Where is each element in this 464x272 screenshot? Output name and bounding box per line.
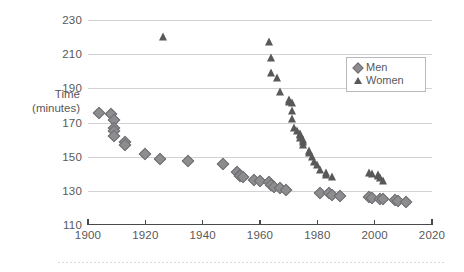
x-axis-tick: [317, 220, 319, 225]
bottom-divider: [58, 262, 446, 263]
data-point-women: [265, 38, 273, 46]
x-axis-tick-label: 2020: [419, 229, 445, 241]
x-axis-tick-label: 1960: [247, 229, 273, 241]
legend-label-men: Men: [366, 61, 387, 74]
legend: Men Women: [346, 57, 426, 92]
x-axis-tick-label: 1920: [132, 229, 158, 241]
data-point-women: [328, 173, 336, 181]
gridline: [88, 157, 432, 158]
y-axis-tick-labels: 110130150170190210230: [48, 20, 82, 225]
y-axis-tick-label: 210: [62, 48, 82, 60]
data-point-women: [288, 115, 296, 123]
data-point-women: [273, 74, 281, 82]
diamond-marker-icon: [352, 64, 364, 72]
legend-item-women: Women: [352, 74, 420, 87]
y-axis-tick-label: 190: [62, 82, 82, 94]
gridline: [88, 191, 432, 192]
marathon-scatter-chart: Time (minutes) 110130150170190210230 190…: [0, 0, 464, 272]
data-point-women: [267, 53, 275, 61]
data-point-women: [288, 106, 296, 114]
data-point-men: [216, 158, 229, 171]
y-axis-tick-label: 150: [62, 151, 82, 163]
x-axis-tick: [431, 219, 433, 225]
data-point-women: [159, 33, 167, 41]
x-axis-tick-label: 1900: [75, 229, 101, 241]
data-point-men: [139, 148, 152, 161]
x-axis-tick: [87, 219, 89, 225]
data-point-women: [276, 87, 284, 95]
x-axis-tick: [374, 220, 376, 225]
plot-area: [88, 20, 432, 225]
x-axis-tick-labels: 1900192019401960198020002020: [88, 229, 432, 247]
legend-item-men: Men: [352, 61, 420, 74]
triangle-marker-icon: [352, 77, 364, 84]
gridline: [88, 20, 432, 21]
x-axis-tick: [259, 220, 261, 225]
gridline: [88, 123, 432, 124]
y-axis-tick-label: 170: [62, 117, 82, 129]
x-axis-tick-label: 1940: [189, 229, 215, 241]
legend-label-women: Women: [366, 74, 404, 87]
y-axis-tick-label: 130: [62, 185, 82, 197]
x-axis-tick-label: 1980: [304, 229, 330, 241]
y-axis-tick-label: 230: [62, 14, 82, 26]
x-axis-tick-label: 2000: [361, 229, 387, 241]
gridline: [88, 54, 432, 55]
data-point-women: [379, 177, 387, 185]
data-point-men: [153, 153, 166, 166]
x-axis-tick: [145, 220, 147, 225]
x-axis-tick: [202, 220, 204, 225]
